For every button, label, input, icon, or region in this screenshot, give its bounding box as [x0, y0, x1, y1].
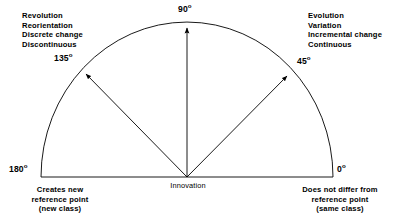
angle-value-180: 180 — [9, 164, 24, 174]
degree-symbol-135: o — [69, 51, 73, 58]
angle-label-135: 135o — [54, 53, 73, 63]
right-caption-line-1: Does not differ from — [288, 185, 392, 195]
right-descriptor-line-1: Evolution — [308, 11, 382, 21]
angle-label-45: 45o — [297, 56, 311, 66]
right-descriptor-line-3: Incremental change — [308, 30, 382, 40]
right-descriptor-line-2: Variation — [308, 21, 382, 31]
right-caption-block: Does not differ from reference point (sa… — [288, 185, 392, 214]
degree-symbol-90: o — [188, 2, 192, 9]
degree-symbol-0: o — [342, 162, 346, 169]
angle-value-45: 45 — [297, 56, 307, 66]
right-descriptor-line-4: Continuous — [308, 40, 382, 50]
left-caption-line-2: reference point — [12, 195, 108, 205]
left-caption-block: Creates new reference point (new class) — [12, 185, 108, 214]
right-descriptor-block: Evolution Variation Incremental change C… — [308, 11, 382, 49]
arrow-135-degrees — [86, 74, 187, 177]
degree-symbol-45: o — [307, 54, 311, 61]
diagram-canvas: 90o 135o 45o 180o 0o Revolution Reorient… — [0, 0, 394, 218]
angle-value-90: 90 — [178, 4, 188, 14]
right-caption-line-2: reference point — [288, 195, 392, 205]
angle-label-0: 0o — [337, 164, 346, 174]
left-descriptor-line-3: Discrete change — [22, 30, 83, 40]
left-descriptor-line-4: Discontinuous — [22, 40, 83, 50]
right-caption-line-3: (same class) — [288, 204, 392, 214]
angle-label-90: 90o — [178, 4, 192, 14]
left-caption-line-1: Creates new — [12, 185, 108, 195]
left-descriptor-line-2: Reorientation — [22, 21, 83, 31]
angle-value-135: 135 — [54, 53, 69, 63]
origin-label: Innovation — [160, 181, 216, 191]
arrow-45-degrees — [187, 76, 287, 177]
left-caption-line-3: (new class) — [12, 204, 108, 214]
angle-label-180: 180o — [9, 164, 28, 174]
left-descriptor-line-1: Revolution — [22, 11, 83, 21]
left-descriptor-block: Revolution Reorientation Discrete change… — [22, 11, 83, 49]
degree-symbol-180: o — [24, 162, 28, 169]
